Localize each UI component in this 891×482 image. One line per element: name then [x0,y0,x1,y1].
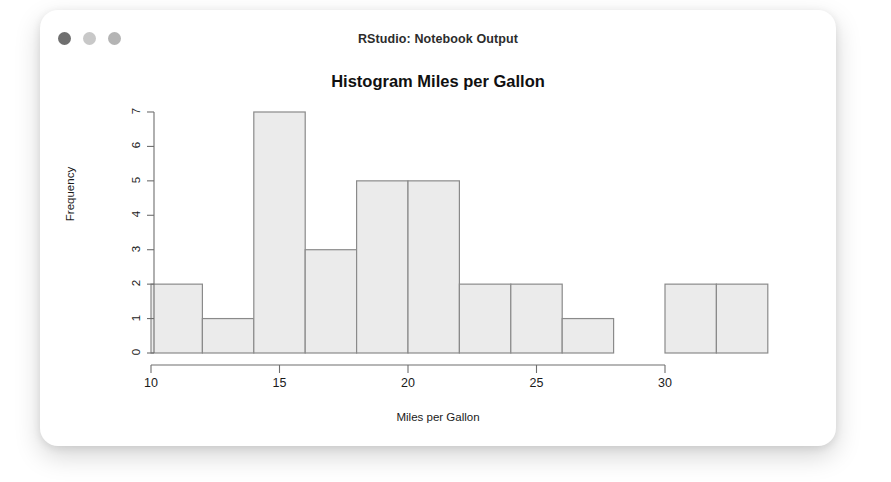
y-axis-tick-label: 6 [130,135,142,155]
x-axis-tick-label: 20 [388,376,428,390]
histogram-bar [202,319,253,353]
histogram-bar [254,112,305,353]
histogram-bar [151,284,202,353]
y-axis-tick-label: 2 [130,273,142,293]
histogram-bar [511,284,562,353]
y-axis-tick-label: 0 [130,342,142,362]
y-axis-tick-label: 4 [130,204,142,224]
histogram-bars [151,112,768,353]
y-axis-tick-label: 1 [130,308,142,328]
plot-area: Histogram Miles per Gallon Frequency Mil… [40,56,836,446]
histogram-bar [408,181,459,353]
x-axis-tick-label: 25 [517,376,557,390]
histogram-bar [716,284,767,353]
histogram-bar [665,284,716,353]
notebook-output-window: RStudio: Notebook Output Histogram Miles… [40,10,836,446]
histogram-bar [305,250,356,353]
histogram-bar [459,284,510,353]
y-axis-tick-label: 5 [130,170,142,190]
x-axis-tick-label: 15 [260,376,300,390]
histogram-bar [357,181,408,353]
x-axis-tick-label: 30 [645,376,685,390]
x-axis-tick-label: 10 [131,376,171,390]
y-axis-tick-label: 3 [130,239,142,259]
histogram-bar [562,319,613,353]
y-axis-tick-label: 7 [130,101,142,121]
